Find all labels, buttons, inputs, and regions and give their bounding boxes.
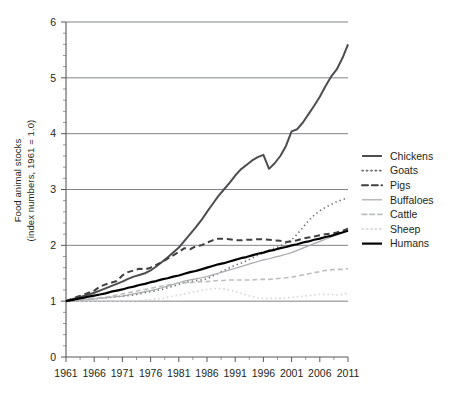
y-tick-labels-group: 0123456 (50, 16, 56, 363)
series-line-chickens (66, 44, 348, 301)
legend-label-sheep: Sheep (390, 223, 421, 235)
x-tick-label-1961: 1961 (54, 367, 78, 379)
x-tick-label-2006: 2006 (308, 367, 332, 379)
x-tick-label-1991: 1991 (224, 367, 248, 379)
y-tick-label-1: 1 (50, 295, 56, 307)
legend-label-goats: Goats (390, 164, 418, 176)
major-ticks-group (61, 22, 348, 362)
x-tick-label-1981: 1981 (167, 367, 191, 379)
x-tick-label-1996: 1996 (252, 367, 276, 379)
x-tick-label-2011: 2011 (337, 367, 360, 379)
series-line-humans (66, 231, 348, 301)
y-tick-label-6: 6 (50, 16, 56, 28)
series-line-sheep (66, 288, 348, 301)
x-tick-labels-group: 1961196619711976198119861991199620012006… (54, 367, 359, 379)
y-axis-title: Food animal stocks (index numbers, 1961 … (2, 0, 48, 360)
x-tick-label-1986: 1986 (195, 367, 219, 379)
x-tick-label-2001: 2001 (280, 367, 304, 379)
legend-label-cattle: Cattle (390, 208, 418, 220)
x-tick-label-1976: 1976 (139, 367, 163, 379)
x-tick-label-1966: 1966 (83, 367, 107, 379)
y-tick-label-5: 5 (50, 72, 56, 84)
legend-label-pigs: Pigs (390, 179, 410, 191)
y-axis-title-line2: (index numbers, 1961 = 1.0) (25, 119, 38, 241)
chart-plot-area: 0123456 19611966197119761981198619911996… (0, 0, 454, 400)
y-tick-label-0: 0 (50, 351, 56, 363)
y-tick-label-3: 3 (50, 183, 56, 195)
series-line-pigs (66, 229, 348, 302)
legend-label-humans: Humans (390, 237, 429, 249)
y-axis-title-line1: Food animal stocks (13, 119, 26, 241)
legend-label-buffaloes: Buffaloes (390, 194, 434, 206)
y-tick-label-4: 4 (50, 127, 56, 139)
minor-ticks-group (63, 33, 334, 360)
y-tick-label-2: 2 (50, 239, 56, 251)
chart-figure: Food animal stocks (index numbers, 1961 … (0, 0, 454, 400)
data-series-group (66, 44, 348, 301)
gridlines-group (66, 22, 348, 301)
legend-group: ChickensGoatsPigsBuffaloesCattleSheepHum… (362, 150, 434, 250)
x-tick-label-1971: 1971 (111, 367, 135, 379)
legend-label-chickens: Chickens (390, 150, 433, 162)
